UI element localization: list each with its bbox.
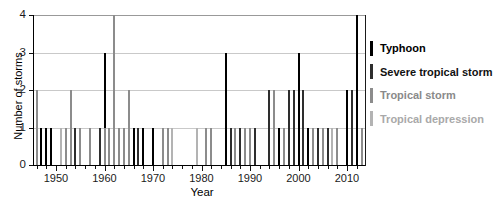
bar-2003-TS [312, 128, 314, 166]
x-minor-tick-1988 [240, 166, 241, 169]
legend-item-tropical-storm: Tropical storm [370, 87, 456, 103]
x-tick-label-1980: 1980 [184, 172, 220, 184]
y-tick-label-1: 1 [10, 121, 26, 133]
x-minor-tick-1948 [46, 166, 47, 169]
x-minor-tick-2012 [357, 166, 358, 169]
bar-1955-TS [79, 128, 81, 166]
gridline-y1 [33, 128, 365, 129]
x-major-tick-1980 [202, 166, 203, 171]
x-axis-label: Year [182, 186, 222, 198]
x-tick-label-1970: 1970 [135, 172, 171, 184]
y-tick-4 [29, 15, 33, 16]
bar-1953-TS [70, 90, 72, 165]
x-minor-tick-1986 [231, 166, 232, 169]
bar-1997-TS [283, 128, 285, 166]
y-tick-3 [29, 53, 33, 54]
x-major-tick-1970 [153, 166, 154, 171]
x-minor-tick-2006 [328, 166, 329, 169]
bar-1985-TY [225, 53, 227, 166]
bar-1990-TS [249, 128, 251, 166]
x-minor-tick-2008 [337, 166, 338, 169]
bar-1987-TS [234, 128, 236, 166]
bar-1967-STS [137, 128, 139, 166]
legend-marker-icon [370, 41, 373, 56]
bar-1948-TY [45, 128, 47, 166]
legend-marker-icon [370, 88, 373, 103]
x-minor-tick-1968 [143, 166, 144, 169]
x-minor-tick-1974 [172, 166, 173, 169]
bar-1968-TY [142, 128, 144, 166]
x-minor-tick-1994 [269, 166, 270, 169]
x-minor-tick-1964 [124, 166, 125, 169]
bar-1959-STS [99, 128, 101, 166]
bar-1952-TS [65, 128, 67, 166]
bar-1986-STS [230, 128, 232, 166]
x-major-tick-2000 [299, 166, 300, 171]
x-minor-tick-1956 [85, 166, 86, 169]
legend-item-typhoon: Typhoon [370, 40, 426, 56]
x-minor-tick-1946 [37, 166, 38, 169]
bar-1965-TS [128, 90, 130, 165]
bar-1998-STS [288, 90, 290, 165]
x-minor-tick-1982 [211, 166, 212, 169]
legend-marker-icon [370, 64, 373, 79]
bar-1972-TS [162, 128, 164, 166]
bar-1991-STS [254, 128, 256, 166]
bar-2005-TS [322, 128, 324, 166]
x-tick-label-2000: 2000 [281, 172, 317, 184]
y-tick-label-0: 0 [10, 158, 26, 170]
bar-1946-TS [36, 90, 38, 165]
bar-2004-STS [317, 128, 319, 166]
x-major-tick-1990 [250, 166, 251, 171]
gridline-y2 [33, 90, 365, 91]
x-minor-tick-1962 [114, 166, 115, 169]
x-minor-tick-1952 [66, 166, 67, 169]
y-tick-2 [29, 90, 33, 91]
bar-2007-TD [331, 128, 333, 166]
x-tick-label-1990: 1990 [232, 172, 268, 184]
x-minor-tick-1954 [75, 166, 76, 169]
bar-1989-TS [244, 128, 246, 166]
bar-1954-STS [74, 128, 76, 166]
bar-2011-STS [351, 90, 353, 165]
bar-2006-STS [327, 128, 329, 166]
x-minor-tick-1984 [221, 166, 222, 169]
x-minor-tick-1978 [192, 166, 193, 169]
y-tick-0 [29, 165, 33, 166]
x-major-tick-1960 [105, 166, 106, 171]
bar-2010-TY [346, 90, 348, 165]
legend-item-tropical-depression: Tropical depression [370, 111, 484, 127]
bar-2012-TY [356, 15, 358, 165]
x-tick-label-2010: 2010 [329, 172, 365, 184]
bar-1957-TS [89, 128, 91, 166]
gridline-y3 [33, 53, 365, 54]
bar-1995-TS [273, 90, 275, 165]
x-minor-tick-1998 [289, 166, 290, 169]
bar-2013-TS [361, 128, 363, 166]
bar-2000-TY [298, 53, 300, 166]
y-tick-label-2: 2 [10, 83, 26, 95]
bar-2008-TS [336, 128, 338, 166]
bar-1951-TD [60, 128, 62, 166]
y-tick-label-4: 4 [10, 8, 26, 20]
right-border-line [365, 15, 366, 166]
bar-1979-TD [196, 128, 198, 166]
bar-1963-TS [118, 128, 120, 166]
bar-1974-TD [171, 128, 173, 166]
bar-1994-STS [268, 90, 270, 165]
legend-marker-icon [370, 111, 373, 126]
x-minor-tick-1992 [260, 166, 261, 169]
gridline-y4 [33, 15, 365, 16]
y-tick-1 [29, 128, 33, 129]
bar-1964-TS [123, 128, 125, 166]
y-axis-line [33, 15, 34, 165]
bar-1981-TS [205, 128, 207, 166]
bar-1973-TS [167, 128, 169, 166]
x-axis-line [33, 165, 366, 166]
x-tick-label-1950: 1950 [38, 172, 74, 184]
bar-2002-TY [307, 128, 309, 166]
x-minor-tick-1966 [134, 166, 135, 169]
bar-1988-STS [239, 128, 241, 166]
x-major-tick-2010 [347, 166, 348, 171]
